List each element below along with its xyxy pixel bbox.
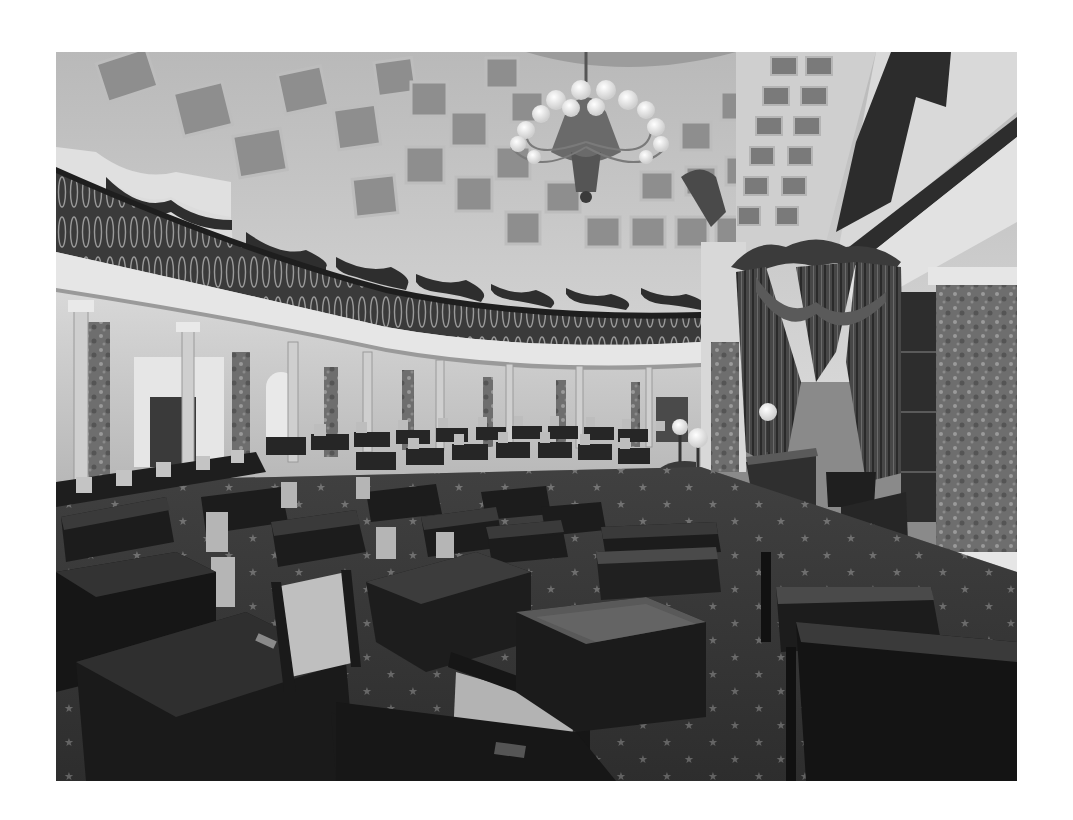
rear-door [656,397,688,442]
marble-column [711,342,739,472]
marble-column-right [936,277,1017,587]
window-frame [901,292,936,522]
dais-canopy-curtains [736,262,906,482]
chamber-illustration: ★ ★ [56,52,1017,781]
chamber-photograph: Black-and-white photograph of a historic… [56,52,1017,781]
